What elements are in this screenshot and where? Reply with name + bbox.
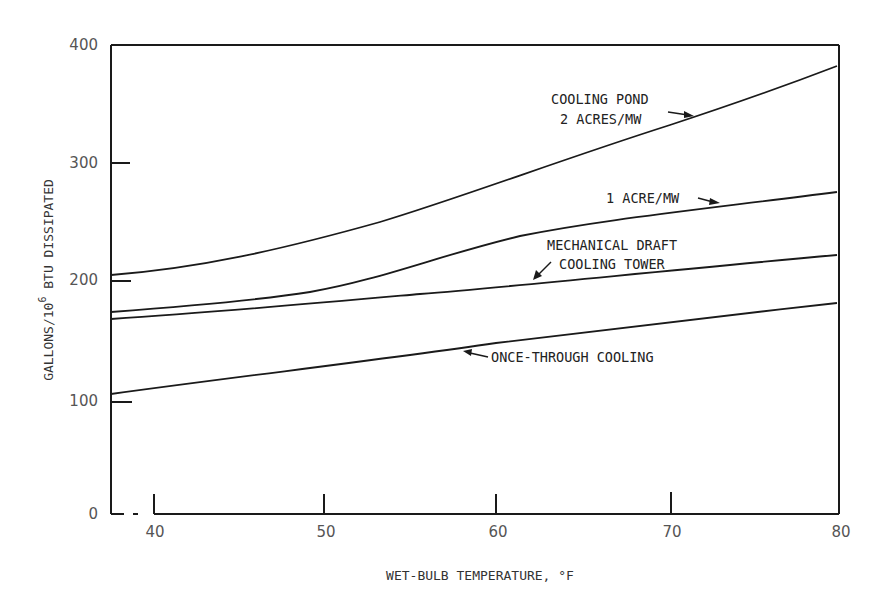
arrow-icon (538, 262, 551, 275)
svg-text:2 ACRES/MW: 2 ACRES/MW (560, 111, 642, 127)
label-1-acre: 1 ACRE/MW (606, 190, 720, 206)
chart: 400 300 200 100 0 40 50 60 70 80 WET-BUL… (0, 0, 875, 606)
x-ticks (154, 492, 671, 514)
curve-mechanical-draft (111, 255, 837, 319)
x-tick-label: 60 (488, 523, 507, 541)
svg-text:COOLING TOWER: COOLING TOWER (559, 256, 666, 272)
curve-once-through (111, 303, 837, 394)
x-tick-label: 80 (831, 523, 850, 541)
label-once-through: ONCE-THROUGH COOLING (463, 349, 654, 365)
x-tick-label: 70 (662, 523, 681, 541)
label-cooling-pond-2-acres: COOLING POND 2 ACRES/MW (551, 91, 694, 127)
svg-text:COOLING POND: COOLING POND (551, 91, 649, 107)
arrowhead-icon (709, 198, 720, 205)
label-mechanical-draft: MECHANICAL DRAFT COOLING TOWER (533, 237, 677, 280)
y-axis-title-pre: GALLONS/10 (41, 303, 56, 381)
y-tick-label: 200 (69, 271, 98, 289)
x-tick-label: 40 (145, 523, 164, 541)
svg-text:1 ACRE/MW: 1 ACRE/MW (606, 190, 680, 206)
y-axis-title: GALLONS/106 BTU DISSIPATED (37, 179, 56, 381)
curve-cooling-pond-2-acres (111, 66, 837, 275)
y-ticks (111, 163, 132, 402)
y-tick-label: 100 (69, 392, 98, 410)
arrowhead-icon (463, 349, 472, 356)
y-tick-label: 400 (69, 36, 98, 54)
svg-text:MECHANICAL DRAFT: MECHANICAL DRAFT (547, 237, 677, 253)
y-tick-label: 300 (69, 154, 98, 172)
svg-text:ONCE-THROUGH COOLING: ONCE-THROUGH COOLING (491, 349, 654, 365)
arrow-icon (470, 353, 488, 357)
y-tick-label: 0 (88, 505, 98, 523)
x-axis-title: WET-BULB TEMPERATURE, °F (386, 568, 574, 583)
curve-cooling-pond-1-acre (111, 192, 837, 312)
x-tick-label: 50 (316, 523, 335, 541)
y-axis-title-post: BTU DISSIPATED (41, 179, 56, 297)
